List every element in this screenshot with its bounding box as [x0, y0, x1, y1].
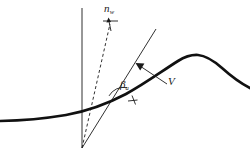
beta-angle-symbol: β	[120, 78, 125, 90]
beta-angle-label: βa	[120, 79, 129, 90]
normal-vector-subscript: w	[110, 8, 114, 15]
figure-container: nw βa V	[0, 0, 250, 152]
velocity-leader-line	[140, 66, 167, 84]
tangent-tick-mark	[128, 96, 138, 105]
normal-arrowhead-icon	[106, 18, 111, 23]
normal-vector-label: nw	[104, 3, 114, 14]
diagram-canvas	[0, 0, 250, 152]
normal-dashed-line	[82, 24, 110, 148]
normal-vector-symbol: n	[104, 2, 110, 14]
beta-angle-subscript: a	[126, 84, 129, 91]
velocity-vector-label: V	[168, 76, 175, 87]
velocity-arrowhead-icon	[136, 63, 145, 71]
tangent-line	[82, 29, 156, 148]
